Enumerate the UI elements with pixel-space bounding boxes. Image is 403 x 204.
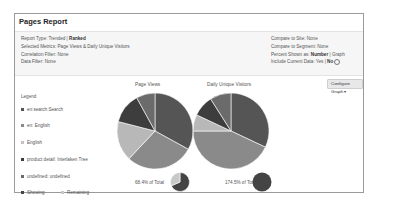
include-current-data: Include Current Data: Yes | No — [271, 58, 345, 66]
page-title: Pages Report — [19, 17, 67, 26]
number-option[interactable]: Number — [311, 52, 328, 57]
report-settings-left: Report Type: Trended | Ranked Selected M… — [21, 35, 130, 66]
ranked-option[interactable]: Ranked — [69, 36, 86, 41]
data-filter: Data Filter: None — [21, 58, 130, 66]
legend-swatch-icon — [21, 141, 24, 144]
legend-remaining: Remaining — [61, 190, 89, 195]
legend-item[interactable]: product detail: Interlaken Tree — [21, 157, 88, 162]
percent-shown-as: Percent Shown as: Number | Graph — [271, 51, 345, 59]
page-views-total-mini-pie — [170, 172, 190, 192]
legend-item[interactable]: en:search:Search — [21, 107, 63, 112]
daily-visitors-total-mini-pie — [252, 172, 272, 192]
page-views-total-label: 68.4% of Total — [135, 180, 164, 185]
report-settings: Report Type: Trended | Ranked Selected M… — [15, 31, 363, 76]
showing-swatch-icon — [21, 191, 24, 194]
report-settings-right: Compare to Site: None Compare to Segment… — [271, 35, 345, 66]
legend-item[interactable]: en: English — [21, 123, 50, 128]
info-circle-icon[interactable] — [334, 59, 340, 65]
no-option[interactable]: No — [327, 59, 333, 64]
legend-swatch-icon — [21, 124, 24, 127]
compare-to-site: Compare to Site: None — [271, 35, 345, 43]
legend-showing: Showing — [21, 190, 45, 195]
report-type: Report Type: Trended | Ranked — [21, 35, 130, 43]
legend-item[interactable]: undefined: undefined — [21, 174, 70, 179]
legend-title: Legend — [21, 94, 36, 99]
legend-swatch-icon — [21, 108, 24, 111]
graph-option[interactable]: | Graph — [328, 52, 345, 57]
selected-metrics: Selected Metrics: Page Views & Daily Uni… — [21, 43, 130, 51]
remaining-swatch-icon — [61, 191, 64, 194]
chart-title-page-views: Page Views — [135, 82, 160, 87]
legend-swatch-icon — [21, 175, 24, 178]
pages-report-panel: Pages Report Report Type: Trended | Rank… — [14, 13, 364, 193]
legend-item[interactable]: English — [21, 140, 42, 145]
chart-title-daily-unique-visitors: Daily Unique Visitors — [207, 82, 251, 87]
legend-swatch-icon — [21, 158, 24, 161]
compare-to-segment: Compare to Segment: None — [271, 43, 345, 51]
daily-unique-visitors-pie-chart[interactable] — [191, 91, 271, 171]
correlation-filter: Correlation Filter: None — [21, 51, 130, 59]
page-views-pie-chart[interactable] — [115, 91, 195, 171]
configure-graph-button[interactable]: Configure Graph ▾ — [327, 79, 363, 89]
